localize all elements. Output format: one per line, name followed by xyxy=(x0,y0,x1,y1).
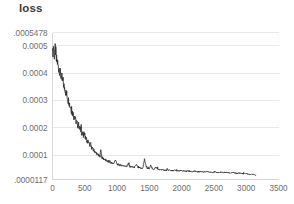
y-tick-label-4: 0.0004 xyxy=(22,69,47,78)
x-tick-label-3: 1500 xyxy=(140,184,159,193)
x-tick-label-6: 3000 xyxy=(237,184,256,193)
gridlines-group xyxy=(53,33,279,180)
y-tick-label-2: 0.0002 xyxy=(22,124,47,133)
x-axis-tick-labels: 0500100015002000250030003500 xyxy=(50,184,288,193)
chart-container: loss .00001170.00010.00020.00030.00040.0… xyxy=(0,0,294,204)
chart-plot-svg: .00001170.00010.00020.00030.00040.0005.0… xyxy=(0,0,294,204)
y-axis-tick-labels: .00001170.00010.00020.00030.00040.0005.0… xyxy=(13,29,48,185)
y-tick-label-5: 0.0005 xyxy=(22,42,47,51)
x-tick-label-1: 500 xyxy=(78,184,92,193)
y-tick-label-6: .0005478 xyxy=(13,29,48,38)
x-tick-label-2: 1000 xyxy=(108,184,127,193)
y-tick-label-0: .0000117 xyxy=(14,176,48,185)
axis-lines-group xyxy=(53,33,279,180)
y-tick-label-3: 0.0003 xyxy=(22,96,47,105)
y-tick-label-1: 0.0001 xyxy=(22,151,47,160)
x-tick-label-0: 0 xyxy=(50,184,55,193)
x-tick-label-7: 3500 xyxy=(269,184,288,193)
x-tick-label-5: 2500 xyxy=(205,184,224,193)
x-tick-label-4: 2000 xyxy=(173,184,192,193)
